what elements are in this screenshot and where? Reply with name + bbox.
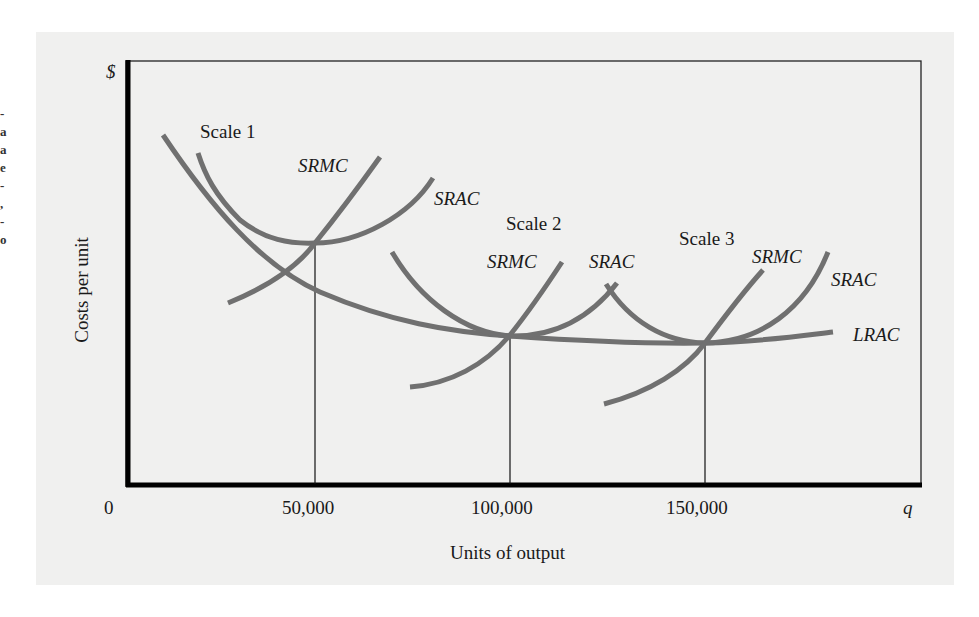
lrac-label: LRAC <box>853 325 899 344</box>
x-tick-150000: 150,000 <box>666 498 728 517</box>
cost-curves-chart <box>0 0 979 617</box>
srmc-scale3-label: SRMC <box>752 247 802 266</box>
scale2-label: Scale 2 <box>506 214 561 233</box>
x-axis-label: Units of output <box>450 543 565 562</box>
y-axis-symbol: $ <box>106 62 116 81</box>
scale3-label: Scale 3 <box>679 229 734 248</box>
y-axis-label: Costs per unit <box>71 237 93 343</box>
x-tick-100000: 100,000 <box>471 498 533 517</box>
srmc-scale1-label: SRMC <box>298 156 348 175</box>
x-tick-0: 0 <box>104 498 114 517</box>
scale1-label: Scale 1 <box>200 122 255 141</box>
x-tick-50000: 50,000 <box>282 498 334 517</box>
srac-scale2-label: SRAC <box>589 252 634 271</box>
srac-scale3-label: SRAC <box>831 270 876 289</box>
srmc-scale2-label: SRMC <box>487 252 537 271</box>
x-axis-symbol: q <box>903 498 913 517</box>
srac-scale1-label: SRAC <box>434 189 479 208</box>
